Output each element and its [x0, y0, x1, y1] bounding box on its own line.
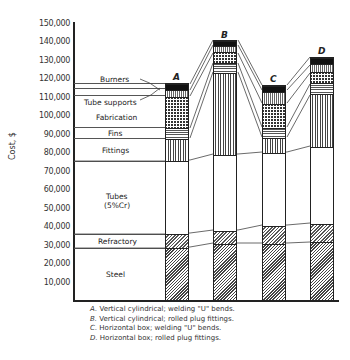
seg-tube-supports	[311, 64, 333, 72]
bar-a	[165, 83, 189, 301]
seg-tubes	[263, 153, 285, 226]
legend-item-d: D. Horizontal box; rolled plug fittings.	[90, 334, 235, 344]
seg-fabrication	[214, 52, 236, 63]
seg-fins	[214, 63, 236, 73]
seg-steel	[214, 244, 236, 300]
seg-fittings	[263, 138, 285, 153]
legend: A. Vertical cylindrical; welding "U" ben…	[90, 305, 235, 343]
seg-fittings	[311, 94, 333, 147]
seg-refractory	[214, 231, 236, 244]
seg-refractory	[166, 234, 188, 248]
seg-refractory	[263, 226, 285, 244]
seg-tube-supports	[263, 92, 285, 104]
seg-fabrication	[166, 97, 188, 128]
bar-label-d: D	[318, 46, 325, 56]
seg-fins	[263, 128, 285, 138]
bar-label-b: B	[221, 30, 228, 40]
legend-item-a: A. Vertical cylindrical; welding "U" ben…	[90, 305, 235, 315]
seg-fins	[166, 128, 188, 139]
seg-fittings	[214, 73, 236, 155]
seg-tube-supports	[166, 90, 188, 97]
legend-item-c: C. Horizontal box; welding "U" bends.	[90, 324, 235, 334]
seg-tubes	[166, 161, 188, 234]
seg-steel	[263, 244, 285, 300]
seg-refractory	[311, 224, 333, 242]
legend-item-b: B. Vertical cylindrical; rolled plug fit…	[90, 315, 235, 325]
bar-b	[213, 40, 237, 301]
seg-fittings	[166, 139, 188, 161]
bar-label-a: A	[173, 72, 180, 82]
seg-steel	[166, 248, 188, 300]
bar-label-c: C	[270, 74, 277, 84]
bar-c	[262, 85, 286, 301]
seg-fabrication	[263, 104, 285, 128]
seg-tubes	[214, 155, 236, 231]
seg-steel	[311, 242, 333, 300]
seg-fabrication	[311, 72, 333, 83]
bar-d	[310, 57, 334, 301]
seg-tubes	[311, 147, 333, 224]
seg-fins	[311, 83, 333, 94]
